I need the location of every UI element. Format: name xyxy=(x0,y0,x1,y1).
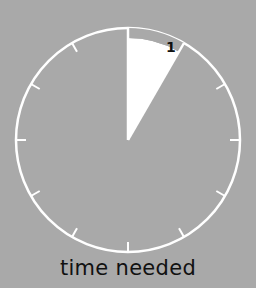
clock-tick xyxy=(72,43,77,52)
clock-tick xyxy=(216,84,225,89)
clock-tick xyxy=(72,228,77,237)
segment-label: 1 xyxy=(166,39,176,55)
diagram-caption: time needed xyxy=(0,256,256,280)
clock-tick xyxy=(179,228,184,237)
clock-tick xyxy=(31,191,40,196)
clock-tick xyxy=(216,191,225,196)
clock-tick xyxy=(31,84,40,89)
clock-diagram: 1 xyxy=(0,0,256,288)
